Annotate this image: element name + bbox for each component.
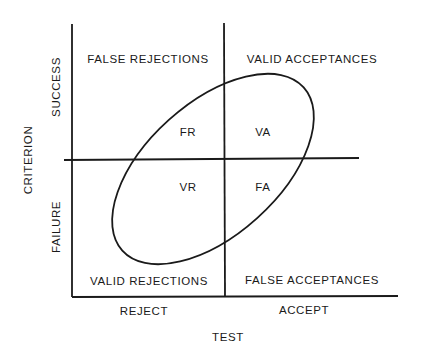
cell-label-fa: FA	[255, 181, 270, 193]
cell-label-vr: VR	[179, 181, 196, 193]
test-cutoff-line	[224, 23, 225, 297]
x-axis-line	[72, 296, 398, 297]
cell-label-va: VA	[255, 126, 271, 138]
x-axis-label-reject: REJECT	[120, 305, 168, 317]
y-axis-title: CRITERION	[22, 126, 34, 195]
y-axis-label-success: SUCCESS	[50, 57, 62, 117]
quadrant-label-false-acceptances: FALSE ACCEPTANCES	[245, 274, 379, 286]
correlation-ellipse	[78, 38, 348, 299]
quadrant-label-valid-rejections: VALID REJECTIONS	[90, 275, 208, 287]
criterion-cutoff-line	[64, 158, 359, 160]
quadrant-label-valid-acceptances: VALID ACCEPTANCES	[247, 53, 378, 65]
x-axis-label-accept: ACCEPT	[279, 304, 329, 316]
y-axis-label-failure: FAILURE	[50, 201, 62, 253]
x-axis-title: TEST	[212, 331, 244, 343]
cell-label-fr: FR	[180, 126, 197, 138]
decision-outcome-diagram: FALSE REJECTIONS VALID ACCEPTANCES VALID…	[0, 0, 421, 361]
quadrant-label-false-rejections: FALSE REJECTIONS	[87, 53, 208, 65]
